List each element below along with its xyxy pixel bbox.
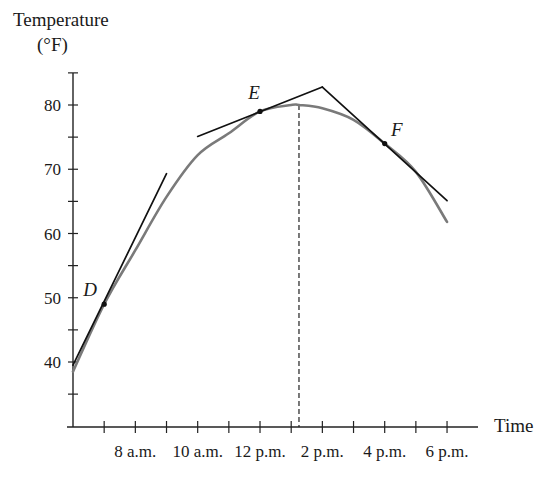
- x-tick-label: 6 p.m.: [426, 442, 469, 461]
- y-tick-label: 40: [44, 353, 61, 372]
- y-axis-title: Temperature (°F): [13, 9, 109, 56]
- y-tick-label: 50: [44, 289, 61, 308]
- point-d-label: D: [82, 279, 97, 300]
- temperature-chart: Temperature (°F) 4050607080 8 a.m.10 a.m…: [0, 0, 554, 481]
- y-axis-label: Temperature: [13, 9, 109, 30]
- point-e-label: E: [247, 82, 260, 103]
- temperature-curve: [73, 104, 447, 371]
- point-e-marker: [257, 109, 262, 114]
- x-tick-label: 4 p.m.: [363, 442, 406, 461]
- x-axis-label: Time: [494, 415, 533, 436]
- point-f-label: F: [390, 119, 403, 140]
- y-tick-label: 60: [44, 225, 61, 244]
- y-tick-label: 70: [44, 160, 61, 179]
- point-f-marker: [382, 141, 387, 146]
- tangent-line-d: [73, 174, 167, 365]
- x-tick-label: 10 a.m.: [172, 442, 223, 461]
- x-tick-label: 2 p.m.: [301, 442, 344, 461]
- x-tick-label: 8 a.m.: [114, 442, 156, 461]
- x-tick-label: 12 p.m.: [234, 442, 285, 461]
- curve-path: [73, 104, 447, 371]
- point-d-marker: [102, 302, 107, 307]
- y-axis-unit: (°F): [37, 34, 68, 56]
- y-tick-label: 80: [44, 96, 61, 115]
